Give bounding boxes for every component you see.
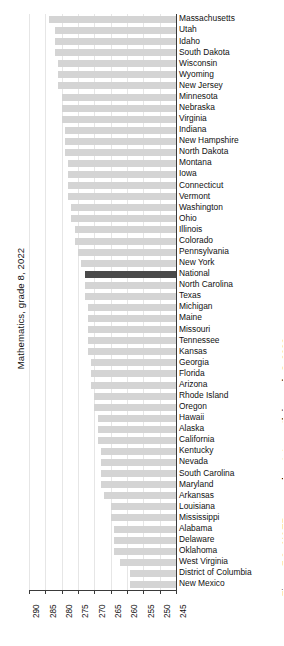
bar-row: National	[29, 269, 176, 280]
bar-row: Louisiana	[29, 501, 176, 512]
category-label-alaska: Alaska	[179, 423, 204, 434]
bar-row: New York	[29, 258, 176, 269]
bar-rhode-island	[94, 393, 176, 400]
plot-area: MassachusettsUtahIdahoSouth DakotaWiscon…	[29, 14, 176, 590]
category-label-oklahoma: Oklahoma	[179, 545, 217, 556]
bar-row: New Jersey	[29, 80, 176, 91]
bar-new-hampshire	[65, 138, 176, 145]
bar-wisconsin	[58, 60, 176, 67]
y-axis-title-container: Mathematics, grade 8, 2022	[0, 0, 20, 646]
bar-minnesota	[62, 94, 176, 101]
bar-texas	[85, 293, 176, 300]
figure-caption: Figure 7.2 NAEP scores by state, math in…	[280, 307, 284, 597]
y-axis-title: Mathematics, grade 8, 2022	[15, 149, 26, 469]
category-label-tennessee: Tennessee	[179, 335, 220, 346]
bar-row: Delaware	[29, 535, 176, 546]
category-label-north-dakota: North Dakota	[179, 146, 228, 157]
bar-row: Montana	[29, 158, 176, 169]
category-label-mississippi: Mississippi	[179, 512, 220, 523]
bar-rows: MassachusettsUtahIdahoSouth DakotaWiscon…	[29, 14, 176, 590]
bar-montana	[68, 160, 176, 167]
figure-caption-number: Figure 7.2	[280, 552, 284, 596]
bar-utah	[55, 27, 176, 34]
category-label-wyoming: Wyoming	[179, 69, 214, 80]
bar-mississippi	[111, 514, 176, 521]
bar-connecticut	[68, 182, 176, 189]
bar-arizona	[91, 382, 176, 389]
bar-tennessee	[88, 337, 176, 344]
category-label-district-of-columbia: District of Columbia	[179, 567, 252, 578]
bar-row: Indiana	[29, 125, 176, 136]
bar-kentucky	[101, 448, 176, 455]
bar-row: Minnesota	[29, 92, 176, 103]
category-label-idaho: Idaho	[179, 36, 200, 47]
bar-row: Florida	[29, 368, 176, 379]
bar-row: Tennessee	[29, 335, 176, 346]
category-label-ohio: Ohio	[179, 213, 197, 224]
bar-row: Alabama	[29, 524, 176, 535]
x-tick-label-255: 255	[147, 604, 156, 618]
bar-california	[98, 437, 176, 444]
bar-idaho	[55, 38, 176, 45]
bar-row: Utah	[29, 25, 176, 36]
bar-row: Hawaii	[29, 413, 176, 424]
category-label-new-york: New York	[179, 257, 214, 268]
bar-row: Ohio	[29, 213, 176, 224]
category-label-nebraska: Nebraska	[179, 102, 215, 113]
bar-row: Idaho	[29, 36, 176, 47]
category-label-indiana: Indiana	[179, 124, 206, 135]
category-label-michigan: Michigan	[179, 301, 213, 312]
category-label-west-virginia: West Virginia	[179, 556, 228, 567]
category-label-colorado: Colorado	[179, 235, 213, 246]
x-tick-label-270: 270	[98, 604, 107, 618]
bar-louisiana	[111, 503, 176, 510]
bar-massachusetts	[49, 16, 176, 23]
category-label-kansas: Kansas	[179, 346, 207, 357]
bar-row: Arizona	[29, 380, 176, 391]
bar-row: New Hampshire	[29, 136, 176, 147]
bar-district-of-columbia	[130, 570, 176, 577]
bar-arkansas	[104, 492, 176, 499]
bar-alaska	[98, 426, 176, 433]
bar-row: Illinois	[29, 224, 176, 235]
bar-row: Iowa	[29, 169, 176, 180]
bar-south-dakota	[55, 49, 176, 56]
bar-row: Rhode Island	[29, 391, 176, 402]
bar-missouri	[88, 326, 176, 333]
bar-row: Maine	[29, 313, 176, 324]
category-label-alabama: Alabama	[179, 523, 212, 534]
bar-row: Massachusetts	[29, 14, 176, 25]
x-tick-label-275: 275	[81, 604, 90, 618]
category-label-connecticut: Connecticut	[179, 180, 223, 191]
bar-row: Oregon	[29, 402, 176, 413]
category-label-national: National	[179, 268, 210, 279]
category-label-texas: Texas	[179, 290, 201, 301]
bar-row: Arkansas	[29, 490, 176, 501]
category-label-south-dakota: South Dakota	[179, 47, 230, 58]
bar-north-dakota	[65, 149, 176, 156]
bar-row: West Virginia	[29, 557, 176, 568]
category-label-minnesota: Minnesota	[179, 91, 218, 102]
x-axis-line	[29, 590, 176, 591]
figure-container: Mathematics, grade 8, 2022 Massachusetts…	[0, 0, 283, 646]
bar-michigan	[88, 304, 176, 311]
category-label-maryland: Maryland	[179, 479, 213, 490]
category-label-arkansas: Arkansas	[179, 490, 214, 501]
category-label-new-jersey: New Jersey	[179, 80, 223, 91]
bar-row: Wisconsin	[29, 58, 176, 69]
bar-national	[85, 271, 176, 278]
category-label-kentucky: Kentucky	[179, 445, 213, 456]
category-label-oregon: Oregon	[179, 401, 207, 412]
bar-row: Nebraska	[29, 103, 176, 114]
category-label-utah: Utah	[179, 24, 197, 35]
bar-north-carolina	[85, 282, 176, 289]
bar-row: Washington	[29, 202, 176, 213]
bar-row: District of Columbia	[29, 568, 176, 579]
bar-row: Missouri	[29, 324, 176, 335]
bar-row: Nevada	[29, 457, 176, 468]
x-tick-label-250: 250	[163, 604, 172, 618]
category-label-hawaii: Hawaii	[179, 412, 204, 423]
bar-row: California	[29, 435, 176, 446]
bar-row: Kentucky	[29, 446, 176, 457]
bar-row: Vermont	[29, 191, 176, 202]
